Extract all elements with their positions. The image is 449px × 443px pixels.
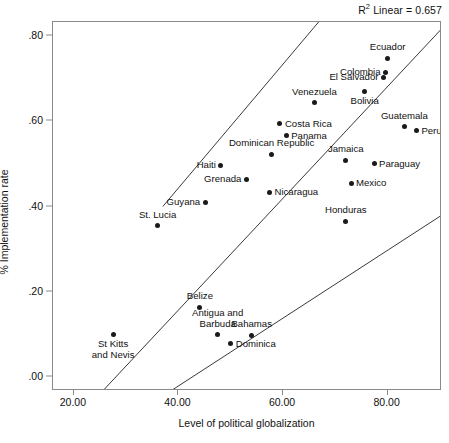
point-label: Jamaica <box>328 144 364 155</box>
scatter-point[interactable] <box>349 181 354 186</box>
chart-page: R2 Linear = 0.657 % Implementation rate … <box>0 0 449 443</box>
plot-area: EcuadorColombiaEl SalvadorBoliviaVenezue… <box>52 21 441 390</box>
point-label: Bolivia <box>350 96 378 107</box>
x-axis-label: Level of political globalization <box>52 417 441 429</box>
point-label: Honduras <box>325 206 367 217</box>
x-tick-label: 20.00 <box>60 396 86 408</box>
point-label: Belize <box>187 292 213 303</box>
y-axis-label: % Implementation rate <box>0 112 10 332</box>
point-label: Mexico <box>356 178 386 189</box>
r-squared-symbol: R <box>358 4 366 16</box>
r-squared-value: Linear = 0.657 <box>370 4 442 16</box>
scatter-point[interactable] <box>269 152 274 157</box>
x-tick-label: 40.00 <box>164 396 190 408</box>
point-label: Grenada <box>204 174 241 185</box>
plot-clip: EcuadorColombiaEl SalvadorBoliviaVenezue… <box>53 22 440 389</box>
scatter-point[interactable] <box>381 75 386 80</box>
point-label: El Salvador <box>329 72 378 83</box>
x-tick-mark <box>177 390 178 395</box>
point-label: St. Lucia <box>139 210 176 221</box>
scatter-point[interactable] <box>372 161 377 166</box>
x-tick-mark <box>387 390 388 395</box>
scatter-point[interactable] <box>203 200 208 205</box>
point-label: Dominica <box>236 338 276 349</box>
x-tick-mark <box>282 390 283 395</box>
point-label: Peru <box>421 125 440 136</box>
scatter-point[interactable] <box>343 158 348 163</box>
y-tick-label: .20 <box>0 285 52 297</box>
point-label: St Kittsand Nevis <box>92 339 135 360</box>
scatter-point[interactable] <box>383 70 388 75</box>
point-label: Nicaragua <box>274 187 318 198</box>
scatter-point[interactable] <box>215 332 220 337</box>
scatter-point[interactable] <box>414 128 419 133</box>
point-label: Ecuador <box>370 43 406 54</box>
point-label: Venezuela <box>292 87 337 98</box>
point-label: Bahamas <box>231 320 272 331</box>
point-label: Guyana <box>167 197 201 208</box>
x-tick-label: 80.00 <box>373 396 399 408</box>
scatter-point[interactable] <box>111 332 116 337</box>
scatter-point[interactable] <box>267 190 272 195</box>
point-label: Haiti <box>197 160 216 171</box>
scatter-point[interactable] <box>385 56 390 61</box>
y-tick-label: .40 <box>0 200 52 212</box>
scatter-point[interactable] <box>244 177 249 182</box>
r-squared-annotation: R2 Linear = 0.657 <box>358 2 442 16</box>
y-tick-label: .60 <box>0 114 52 126</box>
scatter-point[interactable] <box>312 100 317 105</box>
y-tick-label: .00 <box>0 370 52 382</box>
x-tick-mark <box>73 390 74 395</box>
y-tick-label: .80 <box>0 29 52 41</box>
point-label: Paraguay <box>379 159 420 170</box>
point-label: Costa Rica <box>285 119 332 130</box>
x-tick-label: 60.00 <box>269 396 295 408</box>
point-label: Guatemala <box>381 111 428 122</box>
point-label: Dominican Republic <box>229 138 314 149</box>
